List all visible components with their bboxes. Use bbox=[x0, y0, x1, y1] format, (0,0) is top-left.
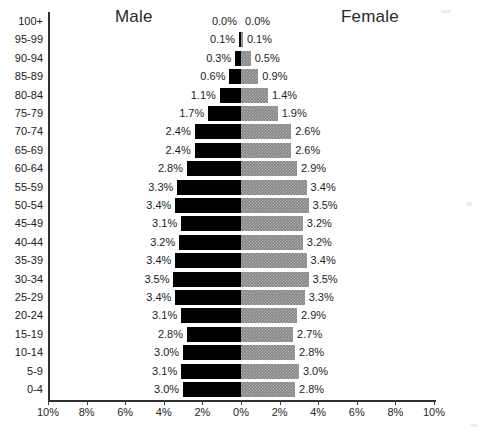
age-group-label: 100+ bbox=[18, 14, 43, 29]
male-bar bbox=[229, 69, 241, 84]
female-value-label: 2.6% bbox=[295, 124, 320, 139]
x-axis-tick bbox=[125, 400, 126, 405]
male-value-label: 3.4% bbox=[146, 253, 171, 268]
x-axis-tick bbox=[202, 400, 203, 405]
x-axis-tick bbox=[434, 400, 435, 405]
male-value-label: 3.1% bbox=[152, 308, 177, 323]
female-bar bbox=[241, 124, 291, 139]
pyramid-row: 90-940.3%0.5% bbox=[48, 51, 434, 66]
pyramid-row: 60-642.8%2.9% bbox=[48, 161, 434, 176]
male-bar bbox=[175, 253, 241, 268]
x-axis-tick-label: 2% bbox=[194, 406, 210, 418]
x-axis-tick-label: 10% bbox=[423, 406, 445, 418]
female-value-label: 0.0% bbox=[245, 14, 270, 29]
x-axis-tick-label: 0% bbox=[233, 406, 249, 418]
male-value-label: 2.4% bbox=[166, 143, 191, 158]
male-value-label: 2.8% bbox=[158, 161, 183, 176]
population-pyramid-chart: Male Female 100+0.0%0.0%95-990.1%0.1%90-… bbox=[0, 0, 480, 435]
age-group-label: 70-74 bbox=[15, 124, 43, 139]
male-value-label: 3.2% bbox=[150, 235, 175, 250]
pyramid-row: 0-43.0%2.8% bbox=[48, 382, 434, 397]
female-bar bbox=[241, 382, 295, 397]
female-value-label: 3.3% bbox=[309, 290, 334, 305]
female-value-label: 1.9% bbox=[282, 106, 307, 121]
female-bar bbox=[241, 51, 251, 66]
pyramid-row: 35-393.4%3.4% bbox=[48, 253, 434, 268]
male-bar bbox=[179, 235, 241, 250]
male-value-label: 3.1% bbox=[152, 216, 177, 231]
pyramid-row: 20-243.1%2.9% bbox=[48, 308, 434, 323]
male-value-label: 1.7% bbox=[179, 106, 204, 121]
female-value-label: 0.9% bbox=[262, 69, 287, 84]
age-group-label: 35-39 bbox=[15, 253, 43, 268]
male-bar bbox=[173, 272, 241, 287]
scan-speckle bbox=[466, 202, 472, 206]
female-value-label: 1.4% bbox=[272, 88, 297, 103]
male-bar bbox=[183, 382, 241, 397]
male-bar bbox=[187, 161, 241, 176]
female-bar bbox=[241, 143, 291, 158]
male-bar bbox=[183, 345, 241, 360]
female-bar bbox=[241, 345, 295, 360]
male-value-label: 0.1% bbox=[210, 32, 235, 47]
age-group-label: 55-59 bbox=[15, 180, 43, 195]
female-bar bbox=[241, 235, 303, 250]
female-bar bbox=[241, 253, 307, 268]
x-axis-tick-label: 4% bbox=[156, 406, 172, 418]
x-axis-tick-label: 10% bbox=[37, 406, 59, 418]
pyramid-row: 25-293.4%3.3% bbox=[48, 290, 434, 305]
male-value-label: 2.8% bbox=[158, 327, 183, 342]
female-bar bbox=[241, 69, 258, 84]
male-bar bbox=[195, 124, 241, 139]
male-bar bbox=[181, 216, 241, 231]
male-value-label: 3.4% bbox=[146, 198, 171, 213]
female-value-label: 3.5% bbox=[313, 272, 338, 287]
x-axis-tick-label: 6% bbox=[117, 406, 133, 418]
age-group-label: 45-49 bbox=[15, 216, 43, 231]
female-value-label: 2.9% bbox=[301, 161, 326, 176]
x-axis-tick bbox=[357, 400, 358, 405]
female-value-label: 2.8% bbox=[299, 345, 324, 360]
pyramid-row: 55-593.3%3.4% bbox=[48, 180, 434, 195]
female-bar bbox=[241, 88, 268, 103]
male-bar bbox=[175, 198, 241, 213]
pyramid-row: 95-990.1%0.1% bbox=[48, 32, 434, 47]
age-group-label: 15-19 bbox=[15, 327, 43, 342]
male-bar bbox=[181, 308, 241, 323]
x-axis-tick bbox=[395, 400, 396, 405]
pyramid-row: 15-192.8%2.7% bbox=[48, 327, 434, 342]
pyramid-row: 100+0.0%0.0% bbox=[48, 14, 434, 29]
male-value-label: 3.0% bbox=[154, 345, 179, 360]
female-value-label: 2.7% bbox=[297, 327, 322, 342]
scan-speckle bbox=[441, 10, 451, 13]
male-bar bbox=[195, 143, 241, 158]
pyramid-row: 70-742.4%2.6% bbox=[48, 124, 434, 139]
male-value-label: 3.5% bbox=[144, 272, 169, 287]
male-bar bbox=[177, 180, 241, 195]
male-bar bbox=[220, 88, 241, 103]
male-bar bbox=[181, 364, 241, 379]
pyramid-row: 5-93.1%3.0% bbox=[48, 364, 434, 379]
age-group-label: 60-64 bbox=[15, 161, 43, 176]
age-group-label: 10-14 bbox=[15, 345, 43, 360]
female-bar bbox=[241, 161, 297, 176]
x-axis-tick-label: 2% bbox=[272, 406, 288, 418]
pyramid-row: 65-692.4%2.6% bbox=[48, 143, 434, 158]
x-axis-tick bbox=[241, 400, 242, 405]
female-bar bbox=[241, 198, 309, 213]
male-value-label: 0.3% bbox=[206, 51, 231, 66]
male-bar bbox=[187, 327, 241, 342]
female-bar bbox=[241, 364, 299, 379]
male-bar bbox=[208, 106, 241, 121]
male-value-label: 0.0% bbox=[212, 14, 237, 29]
age-group-label: 20-24 bbox=[15, 308, 43, 323]
age-group-label: 40-44 bbox=[15, 235, 43, 250]
female-value-label: 0.1% bbox=[247, 32, 272, 47]
age-group-label: 5-9 bbox=[27, 364, 43, 379]
male-value-label: 3.0% bbox=[154, 382, 179, 397]
scan-speckle bbox=[470, 424, 477, 427]
x-axis-tick bbox=[318, 400, 319, 405]
female-bar bbox=[241, 106, 278, 121]
x-axis-tick-label: 6% bbox=[349, 406, 365, 418]
female-value-label: 3.4% bbox=[311, 180, 336, 195]
